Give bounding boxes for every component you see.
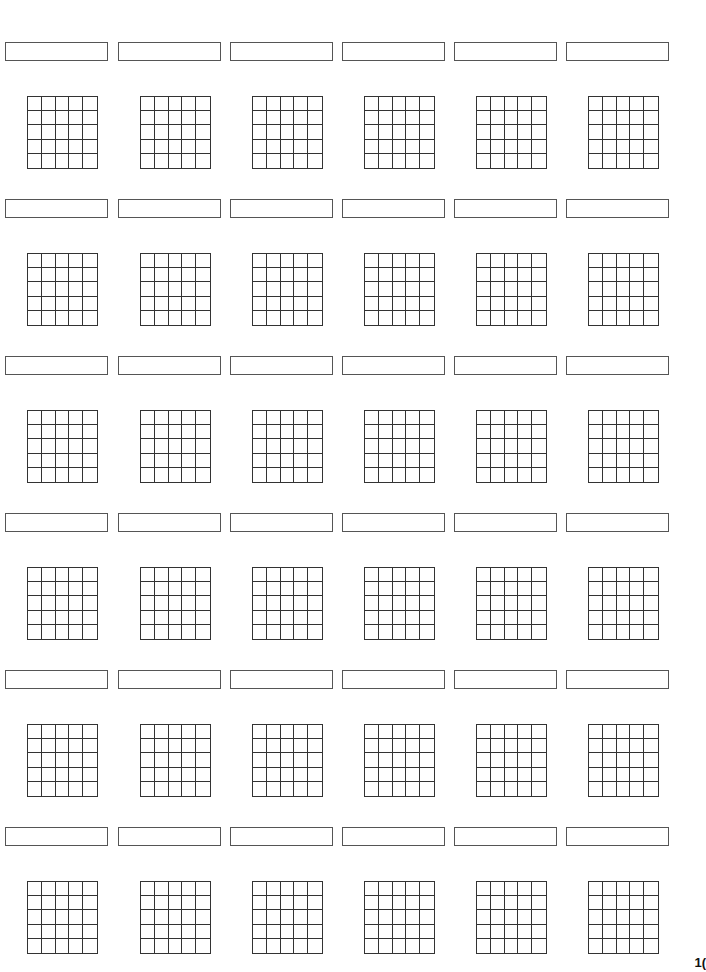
grid-cell[interactable] [267, 925, 281, 939]
grid-cell[interactable] [630, 910, 644, 924]
grid-cell[interactable] [365, 311, 379, 325]
grid-cell[interactable] [491, 596, 505, 610]
grid-cell[interactable] [28, 468, 42, 482]
label-input-box[interactable] [566, 42, 669, 61]
grid-cell[interactable] [253, 782, 267, 796]
grid-cell[interactable] [644, 297, 658, 311]
grid-cell[interactable] [182, 725, 196, 739]
grid-cell[interactable] [253, 411, 267, 425]
grid-cell[interactable] [169, 125, 183, 139]
grid-cell[interactable] [69, 582, 83, 596]
grid-cell[interactable] [56, 439, 70, 453]
label-input-box[interactable] [342, 199, 445, 218]
grid-cell[interactable] [155, 596, 169, 610]
grid-cell[interactable] [532, 625, 546, 639]
grid-cell[interactable] [253, 425, 267, 439]
grid-cell[interactable] [589, 939, 603, 953]
grid-cell[interactable] [644, 254, 658, 268]
grid-cell[interactable] [281, 282, 295, 296]
grid-cell[interactable] [141, 254, 155, 268]
label-input-box[interactable] [230, 42, 333, 61]
grid-cell[interactable] [365, 568, 379, 582]
grid-cell[interactable] [603, 97, 617, 111]
grid-cell[interactable] [308, 154, 322, 168]
grid-cell[interactable] [308, 582, 322, 596]
grid-cell[interactable] [28, 454, 42, 468]
grid-cell[interactable] [532, 739, 546, 753]
grid-cell[interactable] [532, 582, 546, 596]
grid-cell[interactable] [182, 753, 196, 767]
label-input-box[interactable] [5, 356, 108, 375]
grid-cell[interactable] [532, 611, 546, 625]
grid-cell[interactable] [294, 625, 308, 639]
grid-cell[interactable] [420, 753, 434, 767]
grid-cell[interactable] [518, 111, 532, 125]
grid-cell[interactable] [518, 254, 532, 268]
grid-cell[interactable] [393, 882, 407, 896]
grid-cell[interactable] [393, 611, 407, 625]
grid-cell[interactable] [477, 768, 491, 782]
grid-cell[interactable] [196, 611, 210, 625]
grid-cell[interactable] [281, 311, 295, 325]
grid-cell[interactable] [365, 282, 379, 296]
grid-cell[interactable] [69, 611, 83, 625]
grid-cell[interactable] [267, 125, 281, 139]
grid-cell[interactable] [532, 268, 546, 282]
label-input-box[interactable] [342, 356, 445, 375]
grid-cell[interactable] [603, 625, 617, 639]
grid-cell[interactable] [505, 896, 519, 910]
grid-cell[interactable] [83, 611, 97, 625]
grid-cell[interactable] [491, 782, 505, 796]
grid-cell[interactable] [603, 882, 617, 896]
grid-cell[interactable] [83, 125, 97, 139]
grid-cell[interactable] [603, 910, 617, 924]
grid-cell[interactable] [532, 896, 546, 910]
grid-cell[interactable] [617, 925, 631, 939]
grid-cell[interactable] [56, 882, 70, 896]
grid-cell[interactable] [308, 411, 322, 425]
grid-cell[interactable] [281, 782, 295, 796]
grid-cell[interactable] [28, 882, 42, 896]
grid-cell[interactable] [308, 611, 322, 625]
label-input-box[interactable] [118, 199, 221, 218]
grid-cell[interactable] [617, 596, 631, 610]
label-input-box[interactable] [118, 513, 221, 532]
grid-cell[interactable] [294, 454, 308, 468]
grid-cell[interactable] [589, 739, 603, 753]
grid-cell[interactable] [155, 140, 169, 154]
grid-cell[interactable] [505, 925, 519, 939]
grid-cell[interactable] [308, 739, 322, 753]
grid-cell[interactable] [141, 125, 155, 139]
grid-cell[interactable] [253, 282, 267, 296]
grid-cell[interactable] [603, 111, 617, 125]
grid-cell[interactable] [477, 925, 491, 939]
grid-cell[interactable] [477, 154, 491, 168]
grid-cell[interactable] [83, 768, 97, 782]
grid-cell[interactable] [28, 939, 42, 953]
grid-cell[interactable] [617, 468, 631, 482]
grid-cell[interactable] [169, 768, 183, 782]
grid-cell[interactable] [281, 910, 295, 924]
grid-cell[interactable] [42, 582, 56, 596]
grid-cell[interactable] [155, 425, 169, 439]
grid-cell[interactable] [365, 411, 379, 425]
grid-cell[interactable] [169, 311, 183, 325]
grid-cell[interactable] [365, 454, 379, 468]
grid-cell[interactable] [141, 97, 155, 111]
grid-cell[interactable] [505, 311, 519, 325]
grid-cell[interactable] [379, 311, 393, 325]
grid-cell[interactable] [83, 725, 97, 739]
grid-cell[interactable] [182, 739, 196, 753]
grid-cell[interactable] [267, 454, 281, 468]
grid-cell[interactable] [406, 910, 420, 924]
grid-cell[interactable] [169, 568, 183, 582]
grid-cell[interactable] [505, 611, 519, 625]
grid-cell[interactable] [393, 939, 407, 953]
grid-cell[interactable] [589, 753, 603, 767]
grid-cell[interactable] [505, 782, 519, 796]
grid-cell[interactable] [617, 439, 631, 453]
grid-cell[interactable] [617, 111, 631, 125]
grid-cell[interactable] [308, 939, 322, 953]
grid-cell[interactable] [141, 411, 155, 425]
grid-cell[interactable] [406, 782, 420, 796]
